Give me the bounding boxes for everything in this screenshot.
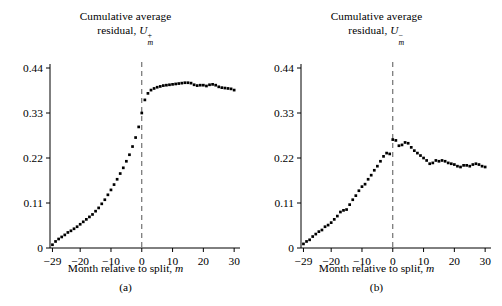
- data-point: [447, 162, 450, 165]
- y-tick-label: 0.33: [274, 107, 294, 119]
- y-tick-label: 0: [37, 242, 43, 254]
- panel-b-subcaption: (b): [251, 281, 502, 293]
- panel-a-xlabel-symbol: m: [175, 262, 183, 274]
- data-point: [484, 166, 487, 169]
- data-point: [156, 86, 159, 89]
- data-point: [54, 240, 57, 243]
- data-point: [110, 189, 113, 192]
- data-point: [116, 178, 119, 181]
- data-point: [404, 141, 407, 144]
- data-point: [217, 85, 220, 88]
- data-point: [103, 198, 106, 201]
- data-point: [57, 238, 60, 241]
- data-point: [324, 225, 327, 228]
- data-point: [125, 160, 128, 163]
- data-point: [416, 152, 419, 155]
- data-point: [302, 243, 305, 246]
- data-point: [230, 88, 233, 91]
- data-point: [91, 213, 94, 216]
- data-point: [180, 82, 183, 85]
- data-point: [419, 154, 422, 157]
- data-point: [159, 85, 162, 88]
- data-point: [88, 216, 91, 219]
- data-point: [187, 81, 190, 84]
- data-point: [314, 233, 317, 236]
- data-point: [422, 157, 425, 160]
- data-point: [165, 84, 168, 87]
- data-point: [171, 83, 174, 86]
- data-point: [177, 82, 180, 85]
- data-point: [97, 207, 100, 210]
- data-point: [395, 139, 398, 142]
- panel-a-xlabel-prefix: Month relative to split,: [68, 262, 175, 274]
- panel-a-xaxis-caption: Month relative to split, m: [0, 262, 251, 274]
- data-point: [385, 152, 388, 155]
- data-point: [431, 162, 434, 165]
- data-point: [438, 160, 441, 163]
- data-point: [94, 210, 97, 213]
- data-point: [308, 238, 311, 241]
- data-point: [162, 84, 165, 87]
- y-tick-label: 0: [288, 242, 294, 254]
- data-point: [82, 220, 85, 223]
- data-point: [205, 85, 208, 88]
- data-point: [348, 203, 351, 206]
- data-point: [456, 165, 459, 168]
- data-point: [113, 183, 116, 186]
- data-point: [119, 172, 122, 175]
- data-point: [214, 84, 217, 87]
- data-point: [202, 84, 205, 87]
- data-point: [131, 145, 134, 148]
- data-point: [391, 138, 394, 141]
- data-point: [465, 164, 468, 167]
- data-point: [339, 211, 342, 214]
- data-point: [336, 215, 339, 218]
- y-tick-label: 0.22: [274, 152, 294, 164]
- data-point: [144, 99, 147, 102]
- data-point: [327, 224, 330, 227]
- panel-b: Cumulative average residual, U−m 0.440.3…: [251, 0, 502, 306]
- y-tick-label: 0.22: [23, 152, 43, 164]
- data-point: [354, 194, 357, 197]
- data-point: [196, 84, 199, 87]
- data-point: [450, 162, 453, 165]
- figure-root: Cumulative average residual, U+m 0.440.3…: [0, 0, 502, 306]
- data-point: [153, 87, 156, 90]
- data-point: [193, 83, 196, 86]
- data-point: [468, 165, 471, 168]
- data-point: [122, 166, 125, 169]
- data-point-group: [302, 138, 486, 245]
- panel-b-plot: 0.440.330.220.110−29−20−100102030: [251, 0, 502, 306]
- data-point: [358, 189, 361, 192]
- data-point: [318, 230, 321, 233]
- y-tick-label: 0.11: [23, 197, 43, 209]
- data-point: [190, 82, 193, 85]
- data-point: [168, 83, 171, 86]
- data-point: [233, 89, 236, 92]
- data-point: [150, 89, 153, 92]
- data-point: [462, 164, 465, 167]
- panel-a-plot: 0.440.330.220.110−29−20−100102030: [0, 0, 251, 306]
- data-point: [76, 225, 79, 228]
- data-point: [471, 163, 474, 166]
- data-point: [361, 185, 364, 188]
- data-point: [211, 83, 214, 86]
- data-point: [435, 159, 438, 162]
- data-point: [67, 231, 70, 234]
- data-point: [184, 81, 187, 84]
- data-point: [428, 162, 431, 165]
- data-point: [199, 84, 202, 87]
- data-point: [379, 160, 382, 163]
- data-point: [376, 165, 379, 168]
- data-point: [107, 193, 110, 196]
- data-point: [60, 236, 63, 239]
- data-point: [128, 153, 131, 156]
- data-point: [208, 83, 211, 86]
- data-point: [413, 149, 416, 152]
- data-point: [441, 159, 444, 162]
- y-tick-label: 0.44: [23, 62, 43, 74]
- data-point: [342, 209, 345, 212]
- data-point: [100, 202, 103, 205]
- panel-b-xlabel-symbol: m: [426, 262, 434, 274]
- data-point: [137, 126, 140, 129]
